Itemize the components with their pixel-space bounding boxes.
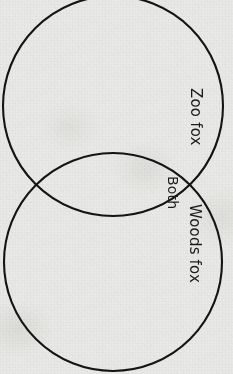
label-woods-fox: Woods fox [186,204,204,283]
label-zoo-fox: Zoo fox [187,88,205,146]
venn-diagram-page: Zoo fox Both Woods fox [0,0,233,374]
venn-circles-svg [0,0,233,374]
label-both: Both [165,176,181,209]
